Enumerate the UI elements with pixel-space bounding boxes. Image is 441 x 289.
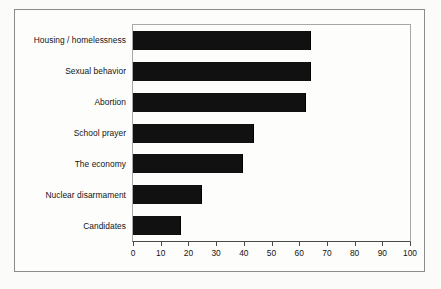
bar-series (133, 25, 410, 241)
x-tick-label: 20 (184, 248, 193, 258)
bar-row (133, 148, 410, 179)
x-tick-label: 10 (156, 248, 165, 258)
bar-chart: Housing / homelessnessSexual behaviorAbo… (15, 10, 426, 273)
x-tick-label: 30 (211, 248, 220, 258)
x-axis-tick-labels: 0102030405060708090100 (132, 248, 411, 262)
category-label: Nuclear disarmament (15, 180, 131, 211)
bar-row (133, 25, 410, 56)
x-tick-label: 0 (131, 248, 136, 258)
bar-row (133, 179, 410, 210)
x-tick (244, 242, 245, 246)
x-tick-label: 80 (350, 248, 359, 258)
x-tick-label: 90 (378, 248, 387, 258)
bar (133, 62, 311, 81)
bar (133, 124, 254, 143)
category-label: Abortion (15, 86, 131, 117)
bar (133, 185, 202, 204)
category-label: Sexual behavior (15, 55, 131, 86)
x-tick (410, 242, 411, 246)
x-tick-label: 100 (403, 248, 417, 258)
category-label: Candidates (15, 211, 131, 242)
bar (133, 31, 311, 50)
x-tick (355, 242, 356, 246)
x-axis-ticks (132, 242, 411, 247)
x-tick (161, 242, 162, 246)
x-tick-label: 50 (267, 248, 276, 258)
x-tick (133, 242, 134, 246)
x-tick (216, 242, 217, 246)
bar (133, 216, 181, 235)
bar-row (133, 56, 410, 87)
x-tick-label: 60 (295, 248, 304, 258)
category-axis: Housing / homelessnessSexual behaviorAbo… (15, 24, 131, 242)
category-label: School prayer (15, 117, 131, 148)
x-tick-label: 40 (239, 248, 248, 258)
category-label: The economy (15, 149, 131, 180)
bar (133, 93, 306, 112)
x-tick (272, 242, 273, 246)
plot-area (132, 24, 411, 242)
bar-row (133, 118, 410, 149)
figure-caption (16, 276, 316, 289)
x-tick (382, 242, 383, 246)
figure-frame: Housing / homelessnessSexual behaviorAbo… (14, 9, 425, 272)
bar (133, 154, 243, 173)
bar-row (133, 87, 410, 118)
x-tick-label: 70 (322, 248, 331, 258)
x-tick (188, 242, 189, 246)
x-tick (327, 242, 328, 246)
bar-row (133, 210, 410, 241)
category-label: Housing / homelessness (15, 24, 131, 55)
x-tick (299, 242, 300, 246)
